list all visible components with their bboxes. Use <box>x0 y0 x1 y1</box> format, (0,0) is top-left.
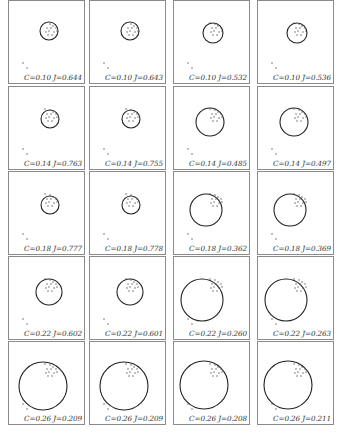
data-point <box>221 116 222 117</box>
data-point <box>46 113 47 114</box>
data-point <box>298 364 299 365</box>
outlier-point <box>26 323 27 324</box>
enclosing-circle <box>180 361 228 409</box>
data-point <box>214 109 215 110</box>
data-point <box>212 34 213 35</box>
data-point <box>47 120 48 121</box>
outlier-point <box>26 153 27 154</box>
panel-r2-c3: C=0.14 J=0.485 <box>173 86 250 170</box>
panel-label: C=0.26 J=0.211 <box>273 414 331 423</box>
data-point <box>220 368 221 369</box>
data-point <box>293 193 294 194</box>
data-point <box>126 372 127 373</box>
data-point <box>129 116 130 117</box>
data-point <box>293 22 294 23</box>
data-point <box>56 116 57 117</box>
data-point <box>209 278 210 279</box>
data-point <box>53 31 54 32</box>
data-point <box>301 111 302 112</box>
data-point <box>299 198 300 199</box>
data-point <box>133 366 134 367</box>
data-point <box>298 194 299 195</box>
outlier-point <box>107 153 108 154</box>
data-point <box>44 363 45 364</box>
panel-label: C=0.14 J=0.485 <box>189 159 247 168</box>
data-point <box>217 196 218 197</box>
data-point <box>44 22 45 23</box>
data-point <box>210 31 211 32</box>
outlier-point <box>271 233 272 234</box>
data-point <box>296 34 297 35</box>
data-point <box>209 22 210 23</box>
data-point <box>211 113 212 114</box>
panel-label: C=0.10 J=0.536 <box>273 73 331 82</box>
data-point <box>220 198 221 199</box>
data-point <box>47 205 48 206</box>
data-point <box>221 371 222 372</box>
data-point <box>221 286 222 287</box>
panel-r3-c3: C=0.18 J=0.362 <box>173 171 250 255</box>
enclosing-circle <box>280 108 308 136</box>
data-point <box>130 364 131 365</box>
data-point <box>299 283 300 284</box>
data-point <box>217 366 218 367</box>
data-point <box>48 30 49 31</box>
data-point <box>215 368 216 369</box>
outlier-point <box>103 148 104 149</box>
data-point <box>304 27 305 28</box>
panel-label: C=0.14 J=0.755 <box>105 159 163 168</box>
data-point <box>128 205 129 206</box>
enclosing-circle <box>36 279 62 305</box>
data-point <box>293 108 294 109</box>
data-point <box>216 205 217 206</box>
data-point <box>131 283 132 284</box>
outlier-point <box>271 62 272 63</box>
enclosing-circle <box>181 279 223 321</box>
outlier-point <box>191 408 192 409</box>
data-point <box>212 120 213 121</box>
data-point <box>136 368 137 369</box>
data-point <box>218 372 219 373</box>
data-point <box>301 196 302 197</box>
data-point <box>49 364 50 365</box>
data-point <box>56 201 57 202</box>
panel-r3-c4: C=0.18 J=0.369 <box>257 171 334 255</box>
panel-r1-c1: C=0.10 J=0.644 <box>8 0 85 84</box>
data-point <box>295 368 296 369</box>
data-point <box>305 116 306 117</box>
data-point <box>133 25 134 26</box>
panel-r2-c4: C=0.14 J=0.497 <box>257 86 334 170</box>
data-point <box>305 30 306 31</box>
outlier-point <box>103 403 104 404</box>
data-point <box>132 205 133 206</box>
data-point <box>136 27 137 28</box>
data-point <box>126 202 127 203</box>
data-point <box>48 371 49 372</box>
data-point <box>132 290 133 291</box>
data-point <box>130 279 131 280</box>
data-point <box>296 205 297 206</box>
data-point <box>55 283 56 284</box>
data-point <box>125 363 126 364</box>
data-point <box>127 283 128 284</box>
data-point <box>215 27 216 28</box>
enclosing-circle <box>287 23 307 43</box>
enclosing-circle <box>100 362 148 410</box>
enclosing-circle <box>203 23 223 43</box>
outlier-point <box>26 408 27 409</box>
panel-label: C=0.18 J=0.369 <box>273 244 331 253</box>
data-point <box>297 286 298 287</box>
outlier-point <box>107 323 108 324</box>
panel-label: C=0.10 J=0.532 <box>189 73 247 82</box>
data-point <box>300 34 301 35</box>
data-point <box>50 113 51 114</box>
data-point <box>298 23 299 24</box>
data-point <box>127 368 128 369</box>
data-point <box>137 30 138 31</box>
panel-r1-c2: C=0.10 J=0.643 <box>89 0 166 84</box>
data-point <box>128 375 129 376</box>
data-point <box>50 198 51 199</box>
data-point <box>133 111 134 112</box>
panel-r3-c2: C=0.18 J=0.778 <box>89 171 166 255</box>
data-point <box>216 375 217 376</box>
